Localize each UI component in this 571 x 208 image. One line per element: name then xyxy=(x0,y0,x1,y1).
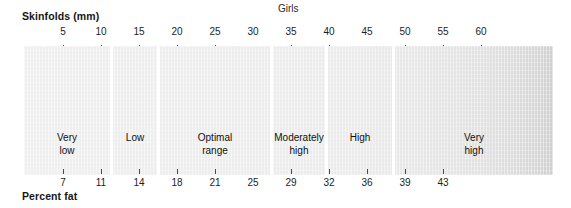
percent-fat-tick-mark xyxy=(329,169,330,174)
skinfolds-mm-tick-label: 35 xyxy=(285,26,296,37)
percent-fat-tick-mark xyxy=(443,169,444,174)
percent-fat-tick-label: 11 xyxy=(96,177,106,188)
zone-label: Very low xyxy=(57,132,77,157)
percent-fat-tick-mark xyxy=(367,169,368,174)
percent-fat-tick-mark xyxy=(63,169,64,174)
skinfolds-mm-tick-label: 60 xyxy=(475,26,486,37)
classification-band: Very lowLowOptimal rangeModerately highH… xyxy=(24,46,553,175)
zone-divider xyxy=(325,46,328,175)
zone-label: Optimal range xyxy=(198,132,232,157)
percent-fat-tick-mark xyxy=(139,169,140,174)
skinfolds-mm-tick-label: 15 xyxy=(133,26,144,37)
zone-label: Very high xyxy=(464,132,484,157)
zone-divider xyxy=(157,46,160,175)
percent-fat-tick-label: 21 xyxy=(209,177,220,188)
top-axis-title: Skinfolds (mm) xyxy=(22,10,99,22)
percent-fat-tick-label: 29 xyxy=(285,177,296,188)
skinfolds-mm-tick-label: 45 xyxy=(361,26,372,37)
zone-divider xyxy=(110,46,113,175)
zone-label: Moderately high xyxy=(274,132,323,157)
percent-fat-tick-mark xyxy=(215,169,216,174)
skinfolds-mm-tick-label: 40 xyxy=(323,26,334,37)
percent-fat-tick-mark xyxy=(177,169,178,174)
percent-fat-tick-label: 43 xyxy=(437,177,448,188)
skinfolds-mm-tick-label: 10 xyxy=(95,26,106,37)
percent-fat-tick-label: 39 xyxy=(399,177,410,188)
skinfolds-mm-tick-label: 20 xyxy=(171,26,182,37)
zone-divider xyxy=(392,46,395,175)
percent-fat-tick-mark xyxy=(405,169,406,174)
skinfolds-mm-tick-label: 30 xyxy=(247,26,258,37)
bottom-axis-title: Percent fat xyxy=(22,190,77,202)
percent-fat-tick-mark xyxy=(291,169,292,174)
skinfolds-mm-tick-label: 25 xyxy=(209,26,220,37)
zone-label: Low xyxy=(126,132,144,145)
percent-fat-tick-label: 18 xyxy=(171,177,182,188)
skinfolds-mm-tick-label: 55 xyxy=(437,26,448,37)
percent-fat-tick-mark xyxy=(101,169,102,174)
percent-fat-tick-label: 14 xyxy=(133,177,144,188)
skinfolds-percent-fat-chart: Skinfolds (mm) Girls 5101520253035404550… xyxy=(0,0,571,208)
percent-fat-tick-label: 25 xyxy=(247,177,258,188)
skinfolds-mm-tick-label: 50 xyxy=(399,26,410,37)
zone-label: High xyxy=(350,132,371,145)
percent-fat-tick-label: 7 xyxy=(60,177,66,188)
percent-fat-tick-label: 36 xyxy=(361,177,372,188)
chart-title: Girls xyxy=(278,3,299,14)
percent-fat-tick-label: 32 xyxy=(323,177,334,188)
skinfolds-mm-tick-label: 5 xyxy=(60,26,66,37)
zone-divider xyxy=(270,46,273,175)
